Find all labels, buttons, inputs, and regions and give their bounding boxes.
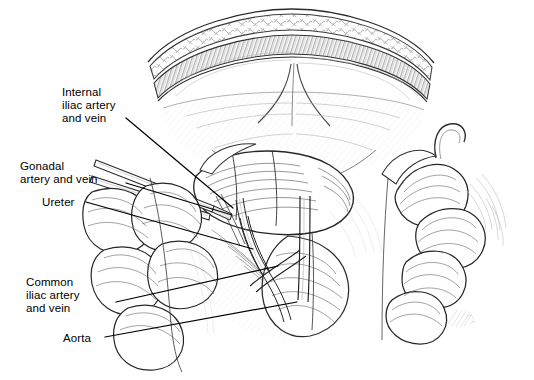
label-ureter: Ureter: [42, 196, 75, 209]
label-gonadal-artery-and-vein: Gonadal artery and vein: [20, 160, 98, 186]
abdominal-wall: [148, 9, 434, 102]
anatomical-figure: Internal iliac artery and vein Gonadal a…: [0, 0, 534, 380]
label-aorta: Aorta: [63, 332, 91, 345]
artist-signature: [448, 309, 476, 328]
intestinal-loops-right: [382, 124, 506, 344]
label-common-iliac-artery-and-vein: Common iliac artery and vein: [26, 276, 80, 316]
illustration-canvas: [0, 0, 534, 380]
label-internal-iliac-artery-and-vein: Internal iliac artery and vein: [62, 86, 116, 126]
